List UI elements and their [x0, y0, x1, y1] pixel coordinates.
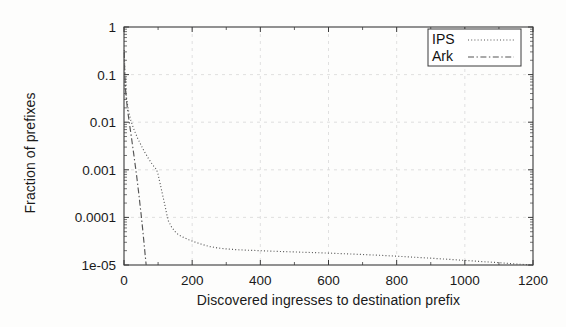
y-tick-label: 0.0001 — [30, 210, 116, 225]
y-tick-label: 0.01 — [30, 115, 116, 130]
x-tick-label: 1000 — [450, 273, 480, 288]
legend-label-ips: IPS — [432, 31, 455, 47]
series-line-ark — [124, 52, 146, 265]
y-tick-label: 1e-05 — [30, 258, 116, 273]
legend-label-ark: Ark — [432, 48, 453, 64]
chart-figure: Fraction of prefixes Discovered ingresse… — [0, 0, 566, 327]
y-tick-label: 1 — [30, 20, 116, 35]
x-tick-label: 400 — [249, 273, 272, 288]
y-tick-label: 0.1 — [30, 67, 116, 82]
x-tick-label: 800 — [385, 273, 408, 288]
x-tick-label: 600 — [317, 273, 340, 288]
x-tick-label: 200 — [181, 273, 204, 288]
x-tick-label: 1200 — [518, 273, 548, 288]
x-axis-label: Discovered ingresses to destination pref… — [124, 292, 533, 308]
y-tick-label: 0.001 — [30, 162, 116, 177]
x-tick-label: 0 — [120, 273, 128, 288]
